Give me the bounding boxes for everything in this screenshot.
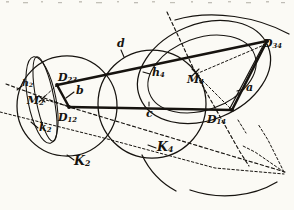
label-side-d: d: [117, 38, 125, 50]
label-M2: M2: [27, 95, 44, 107]
label-D14: D14: [207, 114, 226, 126]
geometric-figure: .ink{fill:none;stroke:#16130f;stroke-lin…: [0, 0, 294, 210]
label-D12: D12: [58, 112, 77, 124]
label-D23: D23: [58, 72, 77, 84]
leader-tick-b: [66, 92, 74, 98]
label-h2-axis: h2: [22, 78, 33, 88]
label-M4: M4: [187, 74, 204, 86]
arc-k4-tail: [142, 155, 176, 191]
linkage-bar-a-shadow: [229, 44, 264, 110]
leader-tick-K4: [148, 145, 156, 148]
label-K2: K2: [74, 155, 90, 168]
label-side-c: c: [146, 108, 153, 120]
leader-tick-k2: [31, 122, 38, 128]
label-D34: D34: [263, 38, 282, 50]
diagram-canvas: .ink{fill:none;stroke:#16130f;stroke-lin…: [0, 0, 294, 210]
label-side-b: b: [76, 85, 84, 97]
construction-stub-right: [238, 120, 246, 133]
arc-lower: [190, 182, 277, 196]
label-k2-axis: k2: [39, 122, 51, 134]
label-side-a: a: [246, 82, 253, 94]
label-K4: K4: [157, 141, 173, 154]
leader-tick-d: [121, 50, 124, 57]
label-h4-axis: h4: [152, 67, 165, 79]
arc-upper-right: [175, 15, 289, 34]
leader-tick-h4: [143, 72, 150, 74]
scan-noise-top: [6, 1, 285, 3]
